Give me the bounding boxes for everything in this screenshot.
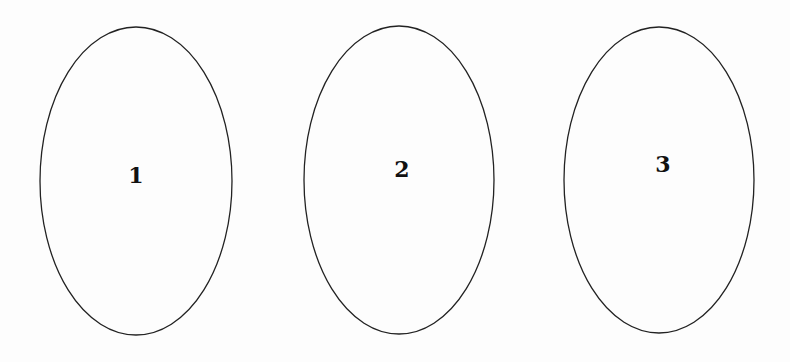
ellipse-label-2: 2 [394,156,409,182]
ellipse-group-2: 2 [304,26,494,334]
ellipse-label-3: 3 [655,151,670,177]
ellipse-3 [564,27,754,333]
ellipse-group-3: 3 [564,27,754,333]
ellipse-label-1: 1 [128,162,143,188]
diagram-canvas: 1 2 3 [0,0,790,362]
ellipse-group-1: 1 [40,27,232,335]
